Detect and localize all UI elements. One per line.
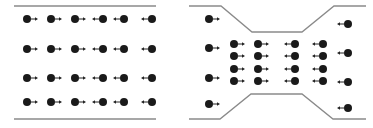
arrow-right-icon — [266, 79, 269, 83]
particle — [141, 45, 156, 53]
particle — [23, 74, 38, 82]
particle-dot — [319, 52, 327, 60]
particle-dot — [99, 74, 107, 82]
particle — [141, 74, 156, 82]
arrow-right-icon — [83, 17, 86, 21]
arrow-left-icon — [92, 47, 95, 51]
particle — [284, 65, 299, 73]
arrow-right-icon — [35, 47, 38, 51]
particle-dot — [254, 52, 262, 60]
arrow-left-icon — [141, 76, 144, 80]
particle — [230, 77, 245, 85]
particle-dot — [120, 98, 128, 106]
particle-dot — [205, 74, 213, 82]
arrow-right-icon — [242, 42, 245, 46]
particle-dot — [47, 45, 55, 53]
particle-dot — [230, 65, 238, 73]
particle-dot — [71, 98, 79, 106]
particle-dot — [71, 74, 79, 82]
particle-dot — [230, 52, 238, 60]
particle-dot — [344, 49, 352, 57]
arrow-right-icon — [266, 67, 269, 71]
particle-dot — [344, 104, 352, 112]
particle — [47, 15, 62, 23]
arrow-right-icon — [242, 54, 245, 58]
particle — [284, 52, 299, 60]
particle-dot — [148, 15, 156, 23]
particle-dot — [205, 100, 213, 108]
arrow-left-icon — [92, 76, 95, 80]
particle-dot — [23, 15, 31, 23]
arrow-right-icon — [217, 46, 220, 50]
particle-dot — [319, 77, 327, 85]
particle-dot — [47, 15, 55, 23]
particle-dot — [291, 65, 299, 73]
particle — [254, 40, 269, 48]
particle — [113, 74, 128, 82]
particle — [230, 40, 245, 48]
particle — [205, 15, 220, 23]
constricted-channel-panel — [189, 6, 366, 119]
arrow-left-icon — [312, 79, 315, 83]
particle — [337, 104, 352, 112]
particle — [92, 98, 107, 106]
particle-dot — [344, 78, 352, 86]
particle — [205, 100, 220, 108]
particle — [92, 74, 107, 82]
arrow-right-icon — [35, 17, 38, 21]
particle-flow-diagram — [0, 0, 373, 128]
particle — [284, 40, 299, 48]
particle-dot — [120, 45, 128, 53]
particle — [230, 65, 245, 73]
particle — [254, 65, 269, 73]
arrow-left-icon — [92, 100, 95, 104]
particle-dot — [23, 74, 31, 82]
arrow-left-icon — [113, 100, 116, 104]
particle-dot — [254, 77, 262, 85]
arrow-right-icon — [83, 47, 86, 51]
particle — [113, 98, 128, 106]
particle — [71, 45, 86, 53]
particle — [71, 74, 86, 82]
uniform-channel-panel — [14, 6, 156, 119]
arrow-left-icon — [141, 47, 144, 51]
arrow-left-icon — [312, 54, 315, 58]
arrow-right-icon — [266, 54, 269, 58]
arrow-right-icon — [59, 76, 62, 80]
particle — [337, 20, 352, 28]
arrow-left-icon — [113, 17, 116, 21]
particle — [141, 15, 156, 23]
particle — [47, 45, 62, 53]
particle — [205, 44, 220, 52]
particle — [284, 77, 299, 85]
arrow-left-icon — [284, 67, 287, 71]
particle — [23, 98, 38, 106]
particle — [230, 52, 245, 60]
arrow-left-icon — [284, 42, 287, 46]
particle — [254, 52, 269, 60]
particle — [71, 98, 86, 106]
arrow-right-icon — [59, 17, 62, 21]
particle-dot — [148, 98, 156, 106]
particle — [113, 45, 128, 53]
particle — [141, 98, 156, 106]
particle-dot — [319, 65, 327, 73]
particle-dot — [23, 98, 31, 106]
arrow-left-icon — [312, 42, 315, 46]
particle-dot — [254, 65, 262, 73]
particle — [312, 40, 327, 48]
particle — [312, 52, 327, 60]
arrow-right-icon — [83, 76, 86, 80]
particle-dot — [148, 45, 156, 53]
particle-dot — [205, 44, 213, 52]
particle-dot — [120, 15, 128, 23]
arrow-left-icon — [337, 22, 340, 26]
arrow-right-icon — [242, 67, 245, 71]
particle-dot — [291, 40, 299, 48]
arrow-left-icon — [312, 67, 315, 71]
arrow-right-icon — [242, 79, 245, 83]
particle-dot — [71, 15, 79, 23]
arrow-right-icon — [217, 17, 220, 21]
particle — [71, 15, 86, 23]
arrow-left-icon — [92, 17, 95, 21]
